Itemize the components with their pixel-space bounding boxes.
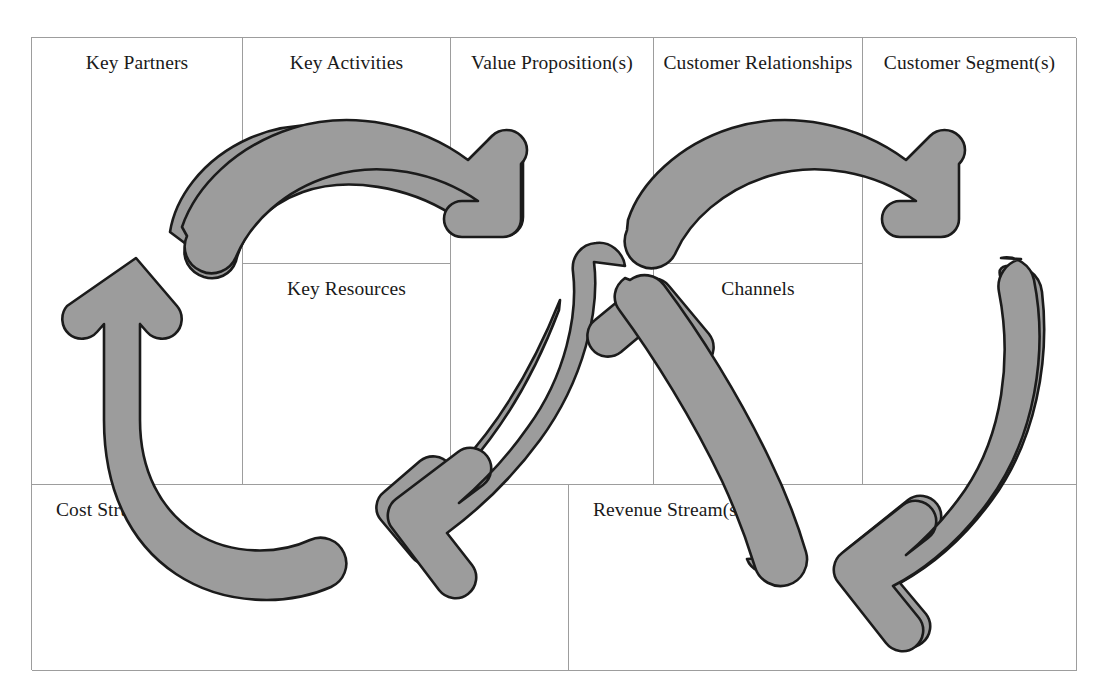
- canvas-block-value-propositions[interactable]: Value Proposition(s): [451, 38, 654, 485]
- canvas-block-customer-relationships[interactable]: Customer Relationships: [654, 38, 863, 264]
- canvas-block-label-cost-structure: Cost Structure: [32, 499, 568, 520]
- canvas-block-label-key-resources: Key Resources: [243, 278, 450, 299]
- business-model-canvas-grid: Key Partners Key Activities Key Resource…: [31, 37, 1076, 670]
- diagram-canvas: Key Partners Key Activities Key Resource…: [0, 0, 1101, 697]
- canvas-block-revenue-streams[interactable]: Revenue Stream(s): [569, 485, 1077, 671]
- canvas-block-cost-structure[interactable]: Cost Structure: [32, 485, 569, 671]
- canvas-block-channels[interactable]: Channels: [654, 264, 863, 485]
- canvas-block-customer-segments[interactable]: Customer Segment(s): [863, 38, 1077, 485]
- canvas-block-label-key-partners: Key Partners: [32, 52, 242, 73]
- canvas-block-label-revenue-streams: Revenue Stream(s): [569, 499, 1076, 520]
- canvas-block-key-resources[interactable]: Key Resources: [243, 264, 451, 485]
- canvas-block-label-value-propositions: Value Proposition(s): [451, 52, 653, 73]
- canvas-block-label-customer-segments: Customer Segment(s): [863, 52, 1076, 73]
- canvas-block-label-channels: Channels: [654, 278, 862, 299]
- canvas-block-key-partners[interactable]: Key Partners: [32, 38, 243, 485]
- canvas-block-label-customer-relationships: Customer Relationships: [654, 52, 862, 73]
- canvas-block-label-key-activities: Key Activities: [243, 52, 450, 73]
- canvas-block-key-activities[interactable]: Key Activities: [243, 38, 451, 264]
